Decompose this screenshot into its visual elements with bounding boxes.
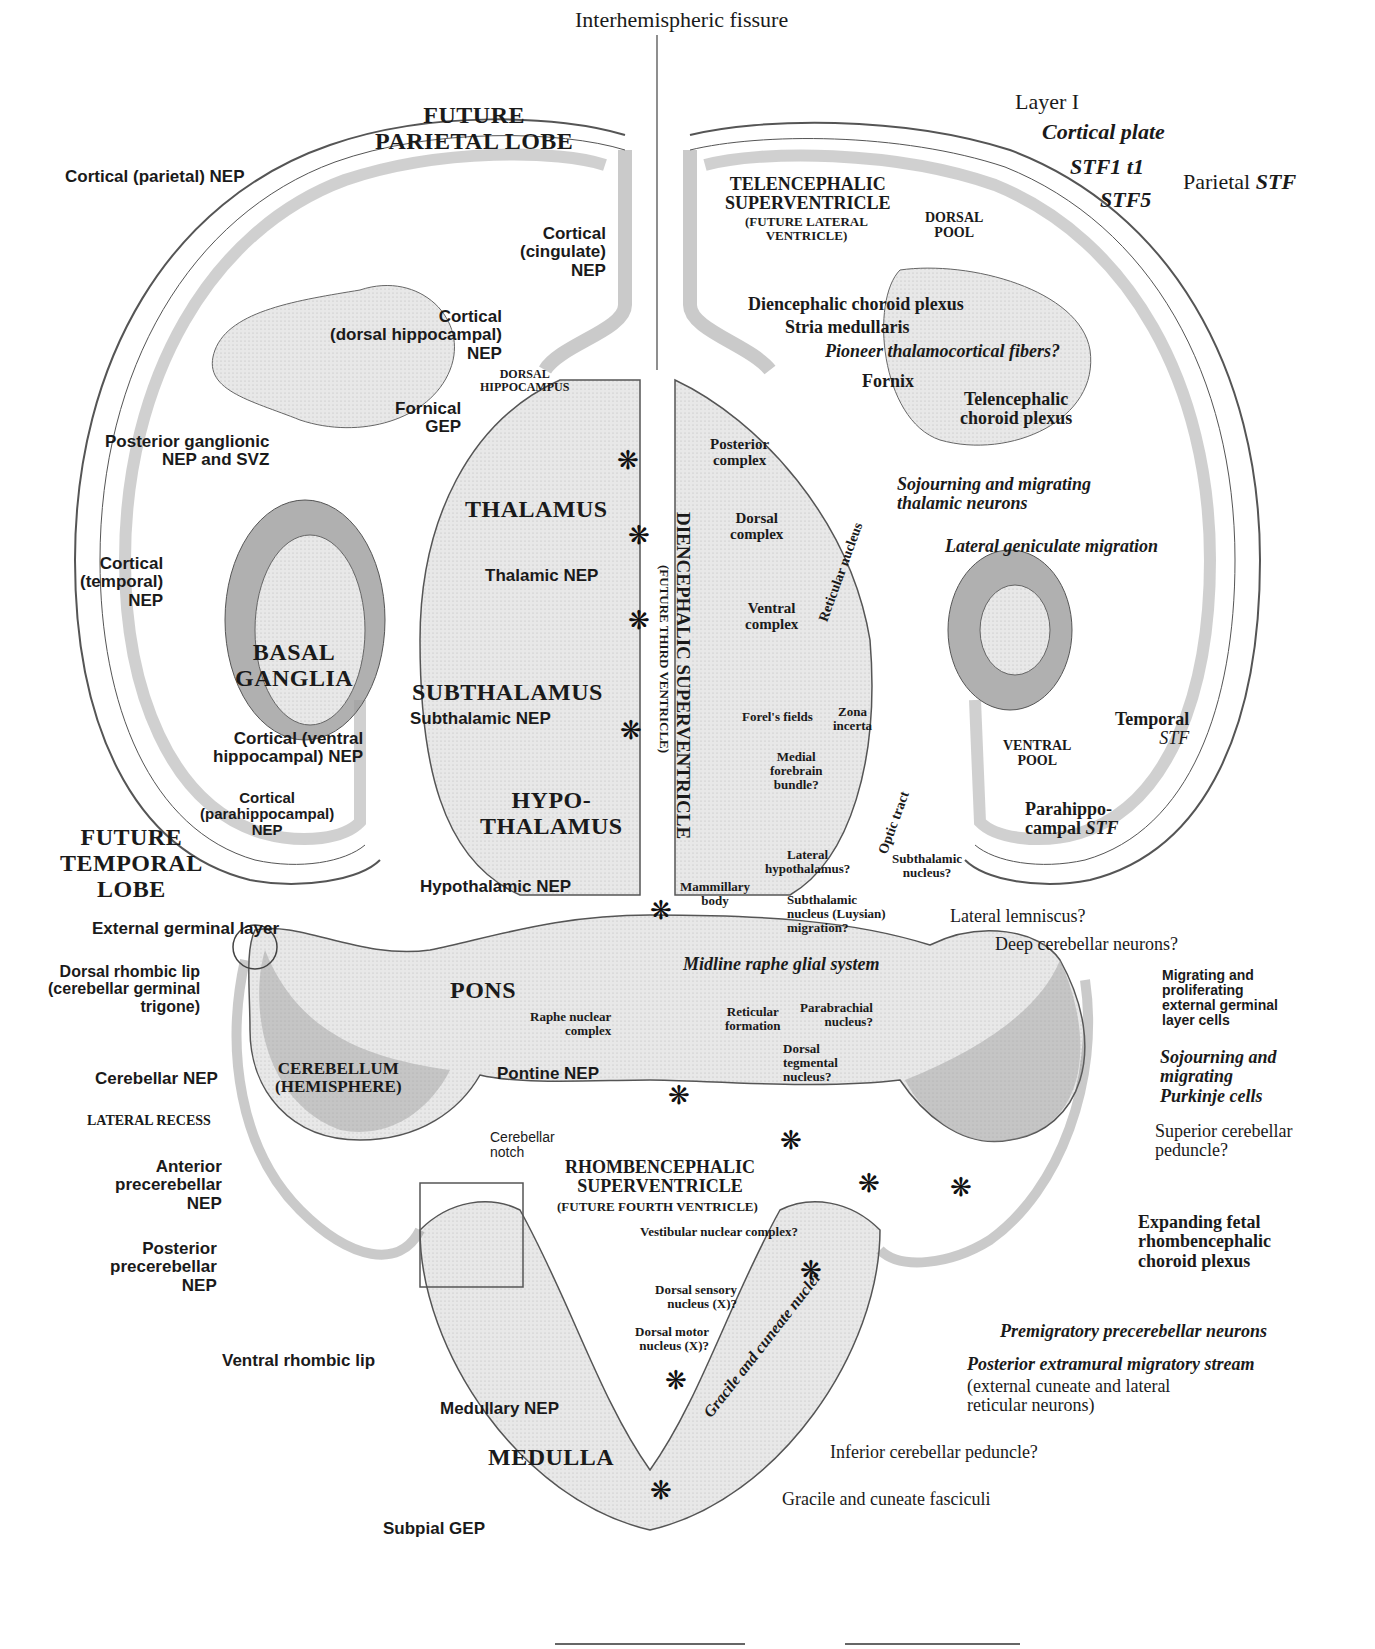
brain-section-diagram: Interhemispheric fissure FUTURE PARIETAL… bbox=[0, 0, 1375, 1649]
label-dorsal-pool: DORSAL POOL bbox=[925, 210, 983, 240]
label-thalamic-nep: Thalamic NEP bbox=[485, 567, 598, 585]
label-subpial-gep: Subpial GEP bbox=[383, 1520, 485, 1538]
label-expanding-fetal-choroid-plexus: Expanding fetal rhombencephalic choroid … bbox=[1138, 1213, 1271, 1271]
label-medulla: MEDULLA bbox=[488, 1445, 614, 1471]
label-medial-forebrain-bundle: Medial forebrain bundle? bbox=[770, 750, 822, 792]
ventricle-asterisk-icon: ❋ bbox=[650, 895, 672, 925]
label-thalamus: THALAMUS bbox=[465, 497, 608, 523]
ventricle-asterisk-icon: ❋ bbox=[668, 1080, 690, 1110]
label-pontine-nep: Pontine NEP bbox=[497, 1065, 599, 1083]
label-diencephalic-superventricle: DIENCEPHALIC SUPERVENTRICLE bbox=[672, 512, 694, 839]
label-zona-incerta: Zona incerta bbox=[833, 705, 872, 733]
label-pons: PONS bbox=[450, 978, 516, 1004]
label-temporal-stf: TemporalSTF bbox=[1115, 710, 1189, 749]
label-hypothalamus: HYPO- THALAMUS bbox=[480, 788, 623, 840]
ventricle-asterisk-icon: ❋ bbox=[617, 445, 639, 475]
label-pioneer-thalamocortical-fibers: Pioneer thalamocortical fibers? bbox=[825, 342, 1060, 361]
label-raphe-nuclear-complex: Raphe nuclear complex bbox=[530, 1010, 611, 1038]
label-ventral-pool: VENTRAL POOL bbox=[1003, 738, 1071, 768]
label-fornix: Fornix bbox=[862, 372, 914, 391]
label-telencephalic-superventricle: TELENCEPHALIC SUPERVENTRICLE bbox=[725, 175, 890, 214]
label-dorsal-complex: Dorsal complex bbox=[730, 510, 783, 542]
label-stria-medullaris: Stria medullaris bbox=[785, 318, 910, 337]
label-posterior-extramural-subtext: (external cuneate and lateral reticular … bbox=[967, 1377, 1170, 1416]
label-subthalamic-nep: Subthalamic NEP bbox=[410, 710, 551, 728]
label-future-third-ventricle: (FUTURE THIRD VENTRICLE) bbox=[656, 565, 672, 753]
label-dorsal-rhombic-lip: Dorsal rhombic lip (cerebellar germinal … bbox=[48, 963, 200, 1015]
label-dorsal-hippocampus: DORSAL HIPPOCAMPUS bbox=[480, 368, 569, 394]
label-future-parietal-lobe: FUTURE PARIETAL LOBE bbox=[375, 103, 573, 155]
label-subthalamic-luysian-migration: Subthalamic nucleus (Luysian) migration? bbox=[787, 893, 886, 935]
label-dorsal-sensory-nucleus: Dorsal sensory nucleus (X)? bbox=[655, 1283, 737, 1311]
label-reticular-formation: Reticular formation bbox=[725, 1005, 781, 1033]
label-cortical-parahippocampal-nep: Cortical (parahippocampal) NEP bbox=[200, 790, 334, 839]
parahippo-stf-line3: STF bbox=[1086, 818, 1119, 838]
label-parahippocampal-stf: Parahippo-campal STF bbox=[1025, 800, 1119, 839]
label-dorsal-motor-nucleus: Dorsal motor nucleus (X)? bbox=[635, 1325, 709, 1353]
label-interhemispheric-fissure: Interhemispheric fissure bbox=[575, 8, 788, 32]
label-lateral-recess: LATERAL RECESS bbox=[87, 1113, 211, 1128]
label-vestibular-nuclear-complex: Vestibular nuclear complex? bbox=[640, 1225, 798, 1239]
label-lateral-hypothalamus: Lateral hypothalamus? bbox=[765, 848, 850, 876]
label-hypothalamic-nep: Hypothalamic NEP bbox=[420, 878, 571, 896]
label-cortical-plate: Cortical plate bbox=[1042, 120, 1165, 144]
label-cortical-cingulate-nep: Cortical (cingulate) NEP bbox=[520, 225, 606, 280]
label-ventral-complex: Ventral complex bbox=[745, 600, 798, 632]
label-stf5: STF5 bbox=[1100, 188, 1151, 212]
label-future-fourth-ventricle: (FUTURE FOURTH VENTRICLE) bbox=[557, 1200, 758, 1214]
label-cortical-ventral-hippocampal-nep: Cortical (ventral hippocampal) NEP bbox=[213, 730, 363, 767]
label-sojourning-thalamic-neurons: Sojourning and migrating thalamic neuron… bbox=[897, 475, 1091, 514]
ventricle-asterisk-icon: ❋ bbox=[800, 1255, 822, 1285]
label-subthalamic-nucleus: Subthalamic nucleus? bbox=[892, 852, 962, 880]
label-premigratory-precerebellar-neurons: Premigratory precerebellar neurons bbox=[1000, 1322, 1267, 1341]
ventricle-asterisk-icon: ❋ bbox=[665, 1365, 687, 1395]
label-cortical-parietal-nep: Cortical (parietal) NEP bbox=[65, 168, 245, 186]
label-posterior-ganglionic-nep-svz: Posterior ganglionic NEP and SVZ bbox=[105, 433, 269, 470]
label-ventral-rhombic-lip: Ventral rhombic lip bbox=[222, 1352, 375, 1370]
label-dorsal-tegmental-nucleus: Dorsal tegmental nucleus? bbox=[783, 1042, 838, 1084]
label-basal-ganglia: BASAL GANGLIA bbox=[235, 640, 353, 692]
label-subthalamus: SUBTHALAMUS bbox=[412, 680, 603, 706]
label-mammillary-body: Mammillary body bbox=[680, 880, 750, 908]
label-future-lateral-ventricle: (FUTURE LATERAL VENTRICLE) bbox=[745, 215, 868, 243]
label-diencephalic-choroid-plexus: Diencephalic choroid plexus bbox=[748, 295, 964, 314]
label-migrating-proliferating-egl: Migrating and proliferating external ger… bbox=[1162, 968, 1278, 1028]
label-posterior-precerebellar-nep: Posterior precerebellar NEP bbox=[110, 1240, 217, 1295]
label-fornical-gep: Fornical GEP bbox=[395, 400, 461, 437]
label-cerebellar-notch: Cerebellar notch bbox=[490, 1130, 555, 1160]
label-posterior-extramural-migratory-stream: Posterior extramural migratory stream bbox=[967, 1355, 1255, 1374]
label-future-temporal-lobe: FUTURE TEMPORAL LOBE bbox=[60, 825, 203, 903]
label-gracile-cuneate-fasciculi: Gracile and cuneate fasciculi bbox=[782, 1490, 990, 1509]
ventricle-asterisk-icon: ❋ bbox=[628, 605, 650, 635]
ventricle-asterisk-icon: ❋ bbox=[650, 1475, 672, 1505]
parahippo-stf-line1: Parahippo- bbox=[1025, 799, 1112, 819]
parietal-stf-suffix: STF bbox=[1256, 169, 1296, 194]
label-layer-i: Layer I bbox=[1015, 90, 1079, 114]
label-medullary-nep: Medullary NEP bbox=[440, 1400, 559, 1418]
label-parabrachial-nucleus: Parabrachial nucleus? bbox=[800, 1001, 873, 1029]
label-cortical-temporal-nep: Cortical (temporal) NEP bbox=[80, 555, 163, 610]
label-lateral-geniculate-migration: Lateral geniculate migration bbox=[945, 537, 1158, 556]
parietal-stf-prefix: Parietal bbox=[1183, 169, 1256, 194]
label-rhombencephalic-superventricle: RHOMBENCEPHALIC SUPERVENTRICLE bbox=[565, 1158, 755, 1197]
label-cerebellum-hemisphere: CEREBELLUM (HEMISPHERE) bbox=[275, 1060, 402, 1097]
label-deep-cerebellar-neurons: Deep cerebellar neurons? bbox=[995, 935, 1178, 954]
label-cerebellar-nep: Cerebellar NEP bbox=[95, 1070, 218, 1088]
ventricle-asterisk-icon: ❋ bbox=[858, 1168, 880, 1198]
label-cortical-dorsal-hippocampal-nep: Cortical (dorsal hippocampal) NEP bbox=[330, 308, 502, 363]
label-inferior-cerebellar-peduncle: Inferior cerebellar peduncle? bbox=[830, 1443, 1038, 1462]
label-sojourning-purkinje-cells: Sojourning and migrating Purkinje cells bbox=[1160, 1048, 1277, 1106]
parahippo-stf-line2: campal bbox=[1025, 818, 1086, 838]
label-parietal-stf: Parietal STF bbox=[1183, 170, 1296, 194]
label-lateral-lemniscus: Lateral lemniscus? bbox=[950, 907, 1085, 926]
temporal-stf-line1: Temporal bbox=[1115, 709, 1189, 729]
temporal-stf-line2: STF bbox=[1159, 728, 1189, 748]
ventricle-asterisk-icon: ❋ bbox=[620, 715, 642, 745]
label-superior-cerebellar-peduncle: Superior cerebellar peduncle? bbox=[1155, 1122, 1292, 1161]
label-posterior-complex: Posterior complex bbox=[710, 436, 769, 468]
label-forels-fields: Forel's fields bbox=[742, 710, 813, 724]
label-anterior-precerebellar-nep: Anterior precerebellar NEP bbox=[115, 1158, 222, 1213]
ventricle-asterisk-icon: ❋ bbox=[628, 520, 650, 550]
ventricle-asterisk-icon: ❋ bbox=[780, 1125, 802, 1155]
label-telencephalic-choroid-plexus: Telencephalic choroid plexus bbox=[960, 390, 1072, 429]
